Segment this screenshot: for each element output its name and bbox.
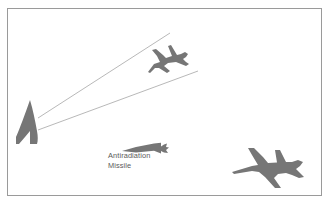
missile-label-line-1: Antiradiation bbox=[108, 151, 150, 160]
radar-beam-line-lower bbox=[38, 71, 198, 130]
aircraft-silhouette-large bbox=[232, 148, 304, 188]
radar-antenna-symbol bbox=[16, 100, 38, 144]
diagram-canvas: Antiradiation Missile bbox=[0, 0, 329, 210]
missile-label-line-2: Missile bbox=[108, 161, 131, 170]
aircraft-silhouette-small bbox=[148, 45, 189, 73]
